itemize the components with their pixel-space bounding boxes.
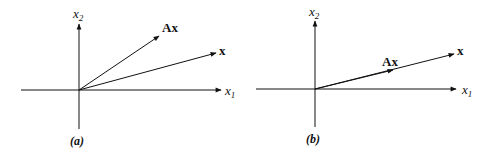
x2-axis-label-b: x2 [308,4,320,21]
vector-x-label-b: x [457,43,464,58]
caption-a: (a) [70,134,84,148]
panel-a: x2 x1 Ax x (a) [21,6,235,148]
panel-b: x2 x1 Ax x (b) [256,4,472,146]
x1-axis-label-b: x1 [461,82,472,99]
figure-canvas: x2 x1 Ax x (a) x2 x1 Ax x (b) [0,0,492,155]
vector-ax-label-a: Ax [162,20,178,35]
vector-ax-label-b: Ax [382,54,398,69]
vector-ax-b [315,70,393,89]
x1-axis-label-a: x1 [224,83,235,100]
vector-x-label-a: x [219,43,226,58]
caption-b: (b) [306,132,320,146]
vector-x-a [79,53,216,90]
vector-ax-a [79,36,159,90]
x2-axis-label-a: x2 [72,6,84,23]
